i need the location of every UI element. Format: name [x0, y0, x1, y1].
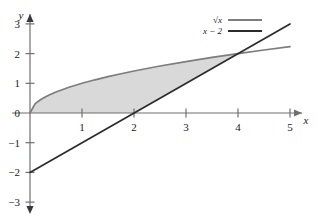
y-tick-label: 1: [15, 77, 21, 89]
x-axis-tick-labels: 12345: [79, 121, 293, 133]
y-tick-label: −3: [8, 196, 20, 208]
figure-container: 12345 3210−1−2−3 y x √x x − 2: [0, 0, 318, 222]
legend: √x x − 2: [202, 15, 262, 36]
x-axis-arrow: [294, 109, 302, 116]
legend-label-sqrt: √x: [213, 15, 222, 25]
x-tick-label: 4: [235, 121, 241, 133]
plot-svg: 12345 3210−1−2−3 y x √x x − 2: [0, 0, 318, 222]
y-axis: [26, 14, 33, 214]
y-axis-arrow-top: [26, 14, 33, 22]
shaded-region: [30, 54, 238, 113]
x-tick-label: 5: [287, 121, 293, 133]
legend-label-x-minus-2: x − 2: [202, 26, 223, 36]
y-axis-arrow-bottom: [26, 206, 33, 214]
x-tick-label: 1: [79, 121, 85, 133]
legend-entry-line: x − 2: [202, 26, 262, 36]
x-axis-label: x: [303, 114, 309, 126]
y-tick-label: 0: [15, 107, 21, 119]
y-axis-label: y: [18, 9, 24, 21]
y-tick-label: −1: [8, 137, 20, 149]
y-tick-label: 2: [15, 48, 21, 60]
legend-entry-sqrt: √x: [213, 15, 262, 25]
x-tick-label: 3: [183, 121, 189, 133]
x-tick-label: 2: [131, 121, 137, 133]
y-tick-label: −2: [8, 166, 20, 178]
y-axis-tick-labels: 3210−1−2−3: [8, 18, 20, 208]
